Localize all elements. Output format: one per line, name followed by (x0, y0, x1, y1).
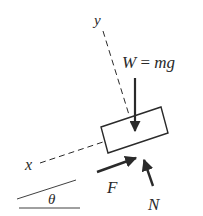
y-axis-line (103, 31, 130, 118)
weight-var: W (122, 53, 138, 72)
angle-label: θ (48, 191, 56, 207)
free-body-diagram: y W = mg x F N θ (0, 0, 203, 216)
normal-arrow (144, 160, 153, 186)
x-axis-line (40, 142, 103, 163)
friction-arrow (97, 158, 136, 172)
weight-expr: mg (154, 53, 175, 72)
friction-label: F (106, 178, 118, 197)
y-axis-label: y (92, 12, 101, 28)
weight-label: W = mg (122, 53, 175, 72)
normal-label: N (147, 195, 161, 214)
incline-line (17, 180, 76, 199)
x-axis-label: x (24, 156, 32, 173)
weight-equals: = (140, 53, 150, 72)
